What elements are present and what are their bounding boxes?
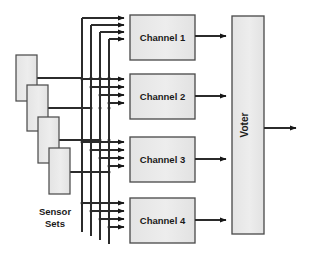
channel2-input-wires (82, 79, 124, 103)
voter-group: Voter (232, 16, 264, 234)
channel-3-label: Channel 3 (140, 154, 185, 165)
channel4-input-wires (82, 203, 124, 227)
bus-junction-dots (81, 77, 111, 229)
channel-4-label: Channel 4 (140, 215, 186, 226)
channel3-input-wires (82, 142, 124, 166)
channels-group: Channel 1 Channel 2 Channel 3 Channel 4 (130, 15, 195, 243)
diagram-canvas: Channel 1 Channel 2 Channel 3 Channel 4 … (0, 0, 314, 257)
channel1-input-wires (82, 18, 124, 39)
channel-1-label: Channel 1 (140, 32, 186, 43)
sensor-sets-caption-line1: Sensor (39, 206, 72, 217)
sensor-sets-group (16, 55, 70, 194)
sensor-sets-caption-line2: Sets (45, 218, 65, 229)
sensor-box-4[interactable] (49, 148, 70, 194)
voter-label: Voter (239, 112, 250, 137)
block-diagram: Channel 1 Channel 2 Channel 3 Channel 4 … (0, 0, 314, 257)
channel-2-label: Channel 2 (140, 91, 185, 102)
channel-output-wires (195, 36, 226, 220)
